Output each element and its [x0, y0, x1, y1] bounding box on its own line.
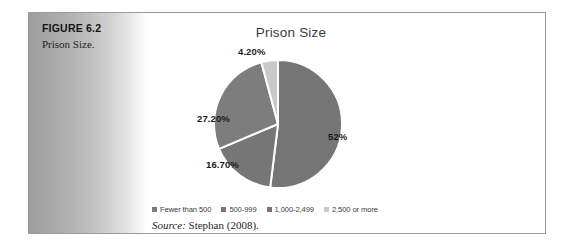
pie-label-2500-or-more: 4.20%	[238, 46, 265, 57]
legend-label: 500-999	[229, 205, 256, 214]
legend-item: 1,000-2,499	[267, 205, 314, 214]
figure-page: FIGURE 6.2 Prison Size. Prison Size 4.20…	[0, 0, 573, 250]
legend-item: Fewer than 500	[152, 205, 211, 214]
legend-label: Fewer than 500	[160, 205, 211, 214]
legend-swatch-icon	[324, 207, 329, 212]
pie-label-fewer-than-500: 27.20%	[197, 113, 230, 124]
legend-swatch-icon	[152, 207, 157, 212]
source-citation: Stephan (2008).	[186, 219, 259, 231]
pie-slice	[270, 60, 342, 188]
chart-legend: Fewer than 500500-9991,000-2,4992,500 or…	[152, 205, 378, 214]
legend-swatch-icon	[221, 207, 226, 212]
chart-area: Prison Size 4.20% 27.20% 16.70% 52% Fewe…	[146, 13, 545, 233]
legend-item: 500-999	[221, 205, 256, 214]
pie-label-1000-2499: 52%	[328, 131, 347, 142]
chart-title: Prison Size	[146, 25, 436, 40]
figure-caption-text: Prison Size.	[42, 37, 146, 51]
legend-swatch-icon	[267, 207, 272, 212]
legend-item: 2,500 or more	[324, 205, 378, 214]
pie-label-500-999: 16.70%	[206, 159, 239, 170]
legend-label: 1,000-2,499	[275, 205, 314, 214]
figure-number: FIGURE 6.2	[42, 22, 146, 35]
source-label: Source:	[152, 219, 186, 231]
legend-label: 2,500 or more	[332, 205, 378, 214]
figure-caption: FIGURE 6.2 Prison Size.	[42, 22, 146, 51]
source-line: Source: Stephan (2008).	[152, 219, 259, 231]
